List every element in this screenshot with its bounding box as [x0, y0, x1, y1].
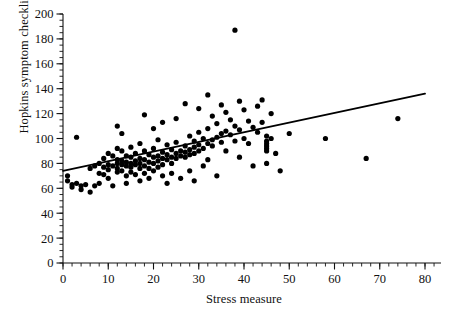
- y-tick-label: 160: [35, 57, 54, 71]
- data-point: [155, 165, 160, 170]
- data-point: [83, 182, 88, 187]
- data-point: [264, 148, 269, 153]
- data-point: [142, 112, 147, 117]
- data-point: [97, 161, 102, 166]
- data-point: [183, 143, 188, 148]
- data-point: [151, 126, 156, 131]
- data-point: [169, 155, 174, 160]
- data-point: [196, 142, 201, 147]
- data-point: [164, 157, 169, 162]
- data-point: [74, 135, 79, 140]
- data-point: [260, 120, 265, 125]
- data-point: [237, 155, 242, 160]
- data-point: [210, 143, 215, 148]
- data-point: [264, 161, 269, 166]
- data-point: [192, 138, 197, 143]
- data-point: [241, 107, 246, 112]
- data-point: [88, 189, 93, 194]
- data-point: [183, 155, 188, 160]
- data-point: [192, 178, 197, 183]
- data-point: [205, 141, 210, 146]
- data-point: [155, 137, 160, 142]
- data-point: [273, 151, 278, 156]
- data-point: [146, 152, 151, 157]
- data-point: [232, 138, 237, 143]
- data-point: [137, 166, 142, 171]
- data-point: [119, 168, 124, 173]
- y-tick-label: 140: [35, 82, 54, 96]
- scatter-plot-figure: 0204060801001201401601802000102030405060…: [0, 0, 449, 314]
- data-point: [232, 123, 237, 128]
- data-point: [187, 152, 192, 157]
- y-tick-label: 180: [35, 32, 54, 46]
- data-point: [241, 136, 246, 141]
- data-point: [255, 130, 260, 135]
- data-point: [323, 136, 328, 141]
- data-point: [151, 146, 156, 151]
- data-point: [155, 158, 160, 163]
- data-point: [137, 141, 142, 146]
- plot-canvas: 0204060801001201401601802000102030405060…: [0, 0, 449, 314]
- data-point: [92, 163, 97, 168]
- data-point: [101, 172, 106, 177]
- data-point: [160, 162, 165, 167]
- data-point: [115, 170, 120, 175]
- data-point: [228, 132, 233, 137]
- data-point: [101, 156, 106, 161]
- x-tick-label: 0: [60, 272, 66, 286]
- data-point: [110, 163, 115, 168]
- data-point: [133, 151, 138, 156]
- data-point: [223, 128, 228, 133]
- data-point: [69, 184, 74, 189]
- y-tick-label: 80: [41, 157, 54, 171]
- data-point: [219, 131, 224, 136]
- data-point: [196, 106, 201, 111]
- data-point: [205, 126, 210, 131]
- data-point: [106, 151, 111, 156]
- data-point: [169, 147, 174, 152]
- data-point: [124, 163, 129, 168]
- data-point: [128, 170, 133, 175]
- y-axis-title: Hopkins symptom checklist score: [17, 0, 32, 156]
- data-point: [146, 176, 151, 181]
- data-point: [205, 92, 210, 97]
- data-point: [65, 173, 70, 178]
- data-point: [178, 176, 183, 181]
- data-point: [151, 168, 156, 173]
- data-point: [128, 165, 133, 170]
- data-point: [192, 151, 197, 156]
- data-point: [160, 156, 165, 161]
- x-tick-label: 10: [102, 272, 115, 286]
- data-point: [146, 160, 151, 165]
- data-point: [219, 102, 224, 107]
- data-point: [124, 153, 129, 158]
- data-point: [269, 136, 274, 141]
- data-point: [169, 161, 174, 166]
- y-tick-label: 40: [41, 207, 54, 221]
- data-point: [183, 101, 188, 106]
- data-point: [210, 113, 215, 118]
- data-point: [250, 125, 255, 130]
- data-point: [178, 153, 183, 158]
- data-point: [264, 133, 269, 138]
- x-tick-label: 40: [238, 272, 251, 286]
- data-point: [214, 173, 219, 178]
- data-point: [178, 148, 183, 153]
- data-point: [174, 151, 179, 156]
- data-point: [250, 163, 255, 168]
- x-tick-label: 80: [419, 272, 432, 286]
- data-point: [395, 116, 400, 121]
- data-point: [260, 97, 265, 102]
- data-point: [115, 123, 120, 128]
- data-point: [155, 153, 160, 158]
- data-point: [164, 142, 169, 147]
- x-tick-label: 20: [147, 272, 160, 286]
- data-point: [160, 173, 165, 178]
- data-point: [65, 178, 70, 183]
- data-point: [74, 181, 79, 186]
- y-tick-label: 100: [35, 132, 54, 146]
- data-point: [124, 173, 129, 178]
- data-point: [219, 140, 224, 145]
- data-point: [232, 28, 237, 33]
- data-point: [88, 166, 93, 171]
